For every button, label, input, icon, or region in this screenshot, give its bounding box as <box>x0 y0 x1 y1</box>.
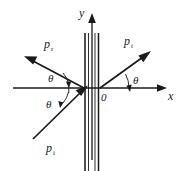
transmitted-ray-arrowhead <box>138 51 151 62</box>
reflected-ray-line <box>33 61 84 88</box>
transmitted-ray-label-subscript: t <box>131 42 134 50</box>
incident-ray <box>33 86 88 140</box>
y-axis-arrowhead <box>88 13 96 23</box>
reflected-ray-label: p r <box>43 37 54 53</box>
incident-ray-label: p i <box>45 141 55 157</box>
origin-label: 0 <box>101 91 107 103</box>
transmitted-ray-label-base: p <box>123 34 130 48</box>
theta-incident-label: θ <box>46 98 52 110</box>
transmitted-ray <box>100 51 151 88</box>
reflected-ray <box>24 56 84 88</box>
y-axis-label: y <box>78 6 85 20</box>
incident-ray-label-subscript: i <box>53 149 55 157</box>
theta-incident-arc-path <box>63 92 69 103</box>
incident-ray-label-base: p <box>45 141 52 155</box>
incident-ray-line <box>33 91 82 139</box>
x-axis <box>13 84 167 92</box>
reflected-ray-label-subscript: r <box>51 45 54 53</box>
x-axis-arrowhead <box>157 84 167 92</box>
ray-diagram-figure: y x 0 p r p t p i θ θ θ <box>0 0 181 171</box>
x-axis-label: x <box>167 89 174 103</box>
theta-transmitted-label: θ <box>133 74 139 86</box>
theta-incident-arc-arrowhead <box>58 101 63 108</box>
theta-reflected-label: θ <box>48 72 54 84</box>
theta-transmitted-arc <box>126 74 132 92</box>
reflected-ray-label-base: p <box>43 37 50 51</box>
transmitted-ray-label: p t <box>123 34 134 50</box>
